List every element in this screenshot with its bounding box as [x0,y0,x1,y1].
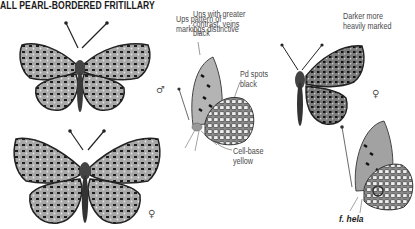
butterfly-hela-underside-illustration [330,115,415,215]
form-caption: f. hela [339,214,364,224]
butterfly-male-upperside-illustration [0,20,160,125]
butterfly-underside-illustration [165,45,265,155]
butterfly-female-upperside-illustration [0,125,170,229]
